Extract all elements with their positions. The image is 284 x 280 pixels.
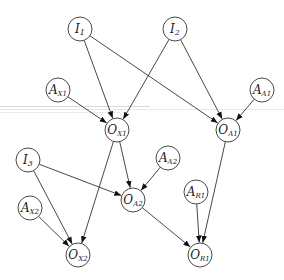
node-I2: I2 bbox=[163, 17, 187, 41]
arrow-icon bbox=[141, 167, 160, 190]
arrow-icon bbox=[142, 208, 190, 247]
edge-I3-to-OA2 bbox=[39, 164, 121, 195]
node-I1: I1 bbox=[68, 17, 92, 41]
node-OA1: OA1 bbox=[216, 118, 240, 142]
edge-AA1-to-OA1 bbox=[236, 99, 254, 120]
node-AX2: AX2 bbox=[18, 196, 42, 220]
node-AX1: AX1 bbox=[46, 78, 70, 102]
node-I3: I3 bbox=[16, 148, 40, 172]
edge-I1-to-OA1 bbox=[90, 36, 218, 123]
arrow-icon bbox=[39, 216, 69, 246]
node-OX1: OX1 bbox=[105, 118, 129, 142]
node-AA2: AA2 bbox=[156, 146, 180, 170]
edge-AA2-to-OA2 bbox=[141, 167, 160, 190]
edge-OA2-to-OR1 bbox=[142, 208, 190, 247]
edge-I2-to-OA1 bbox=[181, 40, 223, 119]
node-OA2: OA2 bbox=[121, 188, 145, 212]
arrow-icon bbox=[236, 99, 254, 120]
arrow-icon bbox=[84, 40, 113, 118]
arrow-icon bbox=[82, 141, 114, 243]
arrow-icon bbox=[181, 40, 223, 119]
arrow-icon bbox=[197, 204, 199, 243]
edge-AR1-to-OR1 bbox=[197, 204, 199, 243]
arrow-icon bbox=[68, 97, 107, 123]
edge-OX1-to-OA2 bbox=[120, 142, 131, 188]
edge-AX1-to-OX1 bbox=[68, 97, 107, 123]
edge-I1-to-OX1 bbox=[84, 40, 113, 118]
node-OX2: OX2 bbox=[66, 243, 90, 267]
edge-OX1-to-OX2 bbox=[82, 141, 114, 243]
edge-AX2-to-OX2 bbox=[39, 216, 69, 246]
edge-I2-to-OX1 bbox=[123, 39, 169, 119]
node-layer: I1I2AX1AA1OX1OA1I3AA2OA2AR1AX2OX2OR1 bbox=[16, 17, 274, 267]
node-AA1: AA1 bbox=[250, 78, 274, 102]
arrow-icon bbox=[39, 164, 121, 195]
arrow-icon bbox=[123, 39, 169, 119]
edge-layer bbox=[34, 36, 255, 247]
graph-canvas: I1I2AX1AA1OX1OA1I3AA2OA2AR1AX2OX2OR1 bbox=[0, 0, 284, 280]
node-AR1: AR1 bbox=[184, 180, 208, 204]
arrow-icon bbox=[120, 142, 131, 188]
node-OR1: OR1 bbox=[188, 243, 212, 267]
arrow-icon bbox=[90, 36, 218, 123]
